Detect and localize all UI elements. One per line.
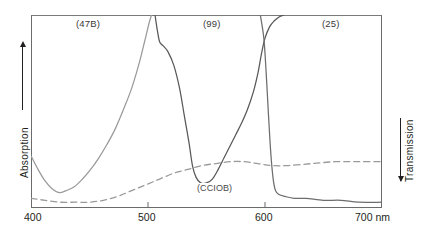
band-label-99: (99) bbox=[203, 18, 221, 29]
x-tick-400: 400 bbox=[24, 211, 42, 223]
curve-cciob bbox=[31, 161, 382, 202]
curve-canvas bbox=[31, 15, 382, 208]
x-tick-600: 600 bbox=[255, 211, 273, 223]
curve-47b bbox=[31, 15, 152, 193]
y-axis-label-absorption: Absorption bbox=[19, 127, 30, 178]
spectral-transmission-chart: (47B) (99) (25) (CCIOB) 400 500 600 700 … bbox=[0, 0, 423, 239]
band-label-47b: (47B) bbox=[76, 18, 100, 29]
y-axis-label-transmission: Transmission bbox=[404, 119, 415, 182]
x-tick-500: 500 bbox=[138, 211, 156, 223]
arrow-down-icon bbox=[398, 176, 404, 182]
transmission-axis-line bbox=[400, 118, 401, 181]
arrow-up-icon bbox=[20, 41, 26, 47]
x-tick-700: 700 nm bbox=[355, 211, 390, 223]
curve-25 bbox=[260, 15, 382, 202]
dashed-curve-label: (CCIOB) bbox=[196, 183, 233, 193]
band-label-25: (25) bbox=[322, 18, 340, 29]
absorption-axis-line bbox=[22, 47, 23, 110]
